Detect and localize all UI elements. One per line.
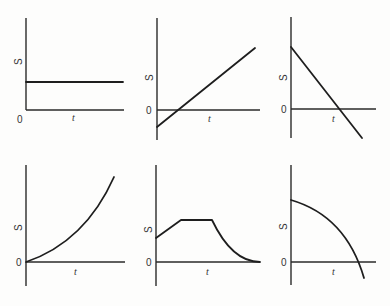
s-label: S [13,58,24,65]
origin-label: 0 [146,105,152,116]
s-curve [157,48,255,127]
origin-label: 0 [281,104,287,115]
s-curve [156,220,260,262]
origin-label: 0 [281,257,287,268]
s-label: S [13,224,24,231]
s-curve [291,47,362,138]
s-curve [26,177,114,262]
position-time-graphs: 0 S t 0 S t 0 S t 0 S t 0 S t [0,0,390,306]
s-label: S [143,226,154,233]
origin-label: 0 [17,114,23,125]
t-label: t [206,266,209,277]
t-label: t [332,266,335,277]
panel-4-concave-up: 0 S t [13,165,125,286]
s-label: S [144,74,155,81]
s-label: S [278,223,289,230]
s-curve [291,200,364,278]
t-label: t [208,113,211,124]
panel-1-constant: 0 S t [13,18,124,125]
panel-5-ramp-plateau-decay: 0 S t [143,165,260,286]
origin-label: 0 [16,257,22,268]
t-label: t [72,112,75,123]
t-label: t [74,266,77,277]
panel-3-linear-decreasing: 0 S t [278,17,376,138]
s-label: S [278,74,289,81]
panel-2-linear-increasing: 0 S t [144,18,260,140]
panel-6-concave-down: 0 S t [278,165,376,285]
origin-label: 0 [146,257,152,268]
t-label: t [332,113,335,124]
